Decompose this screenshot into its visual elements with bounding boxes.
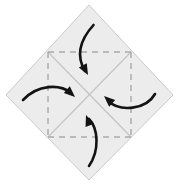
origami-diagram-canvas <box>0 0 178 191</box>
origami-diagram-svg <box>0 0 178 191</box>
